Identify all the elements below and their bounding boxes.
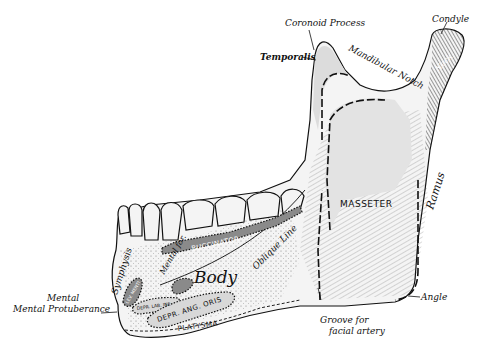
- label-groove-line1: Groove for: [320, 315, 369, 325]
- label-angle: Angle: [420, 292, 447, 302]
- label-body: Body: [193, 267, 238, 287]
- label-masseter: MASSETER: [340, 199, 392, 209]
- label-groove-line2: facial artery: [328, 326, 386, 336]
- label-mental-protuberance: Mental Protuberance: [12, 304, 110, 314]
- mandible-diagram: Coronoid Process Condyle Temporalis Mand…: [0, 0, 485, 353]
- label-coronoid-process: Coronoid Process: [285, 18, 366, 28]
- label-condyle: Condyle: [432, 14, 469, 24]
- label-temporalis: Temporalis: [260, 52, 316, 62]
- label-mental: Mental: [46, 293, 79, 303]
